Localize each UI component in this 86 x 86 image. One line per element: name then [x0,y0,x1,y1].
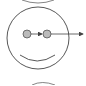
bottom-partial-arc [32,83,55,86]
smile-arc [20,55,55,61]
face-circle [7,7,69,69]
right-eye [43,30,51,38]
diagram-canvas [0,0,86,85]
top-partial-arc [22,0,54,3]
left-eye [23,30,31,38]
